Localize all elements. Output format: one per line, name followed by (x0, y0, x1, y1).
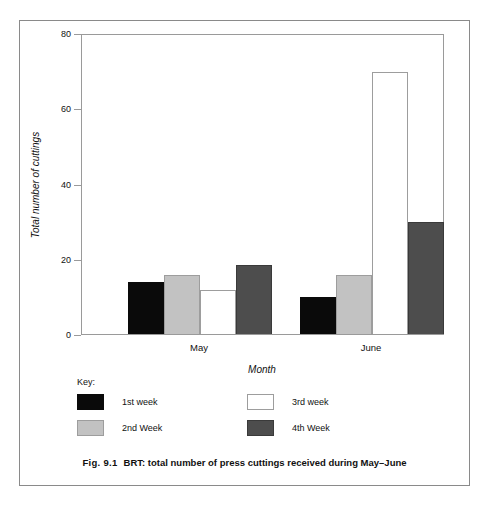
legend-swatch-icon (77, 420, 104, 436)
bar-chart: Total number of cuttings 020406080 Month… (81, 34, 463, 335)
legend-entry: 3rd week (247, 394, 417, 410)
bar-june-series-1 (300, 297, 336, 335)
y-axis-tick-label: 80 (61, 29, 71, 39)
legend-label: 2nd Week (122, 423, 162, 433)
caption-description: BRT: total number of press cuttings rece… (124, 457, 407, 468)
y-axis-tick (74, 260, 81, 261)
legend-swatch-icon (247, 394, 274, 410)
bar-may-series-3 (200, 290, 236, 335)
legend-entry: 2nd Week (77, 420, 247, 436)
y-axis-tick (74, 335, 81, 336)
x-axis-group-label-june: June (361, 342, 382, 353)
y-axis-tick (74, 109, 81, 110)
legend-row: 2nd Week4th Week (77, 420, 417, 436)
bar-may-series-2 (164, 275, 200, 335)
legend: Key: 1st week3rd week2nd Week4th Week (77, 377, 417, 446)
legend-row: 1st week3rd week (77, 394, 417, 410)
legend-rows: 1st week3rd week2nd Week4th Week (77, 394, 417, 436)
figure-frame: Total number of cuttings 020406080 Month… (19, 20, 470, 486)
legend-label: 4th Week (292, 423, 330, 433)
caption-figure-number: Fig. 9.1 (82, 457, 117, 468)
y-axis-tick (74, 185, 81, 186)
figure-caption: Fig. 9.1BRT: total number of press cutti… (20, 457, 469, 468)
legend-swatch-icon (247, 420, 274, 436)
y-axis-tick (74, 34, 81, 35)
y-axis-title: Total number of cuttings (30, 131, 41, 237)
y-axis-tick-label: 60 (61, 104, 71, 114)
legend-title: Key: (77, 377, 417, 387)
bar-june-series-4 (408, 222, 444, 335)
y-axis-tick-label: 0 (66, 330, 71, 340)
x-axis-title: Month (248, 364, 276, 375)
y-axis-tick-label: 20 (61, 255, 71, 265)
x-axis-line (81, 334, 444, 335)
legend-label: 3rd week (292, 397, 329, 407)
x-axis-group-label-may: May (190, 342, 208, 353)
legend-entry: 4th Week (247, 420, 417, 436)
legend-label: 1st week (122, 397, 158, 407)
y-axis-tick-label: 40 (61, 180, 71, 190)
bar-may-series-4 (236, 265, 272, 335)
bar-june-series-3 (372, 72, 408, 335)
bar-june-series-2 (336, 275, 372, 335)
plot-area (81, 34, 444, 335)
legend-entry: 1st week (77, 394, 247, 410)
bar-may-series-1 (128, 282, 164, 335)
legend-swatch-icon (77, 394, 104, 410)
